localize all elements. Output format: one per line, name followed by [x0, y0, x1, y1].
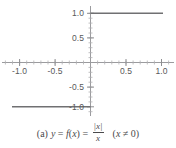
x-tick-label-1: 1.0	[155, 66, 167, 76]
x-tick-label-neg-0-5: -0.5	[48, 66, 63, 76]
caption-f-close-paren: )	[77, 128, 80, 139]
y-tick-label-neg-0-5: -0.5	[56, 82, 84, 92]
caption-y: y	[51, 128, 55, 139]
y-tick-label-0-5: 0.5	[56, 33, 84, 43]
caption-fraction-numerator: |x|	[93, 122, 104, 131]
caption-condition: (x≠0)	[113, 128, 140, 139]
caption-equals-2: =	[82, 128, 88, 139]
x-tick-label-neg-1: -1.0	[12, 66, 27, 76]
figure-panel: -1.0 -0.5 0.5 1.0 1.0 0.5 -0.5 -1.0 (a) …	[0, 0, 176, 148]
y-tick-label-1: 1.0	[56, 8, 84, 18]
plot-area: -1.0 -0.5 0.5 1.0 1.0 0.5 -0.5 -1.0	[0, 0, 176, 118]
caption-fraction-denominator: x	[95, 134, 101, 143]
x-tick-label-0-5: 0.5	[120, 66, 132, 76]
caption-condition-relation: ≠	[123, 128, 129, 139]
caption-condition-close-paren: )	[136, 128, 139, 139]
caption-fraction: |x| x	[93, 122, 104, 143]
figure-caption: (a) y = f ( x ) = |x| x (x≠0)	[0, 118, 176, 148]
caption-equals-1: =	[58, 128, 64, 139]
caption-condition-variable: x	[116, 128, 120, 139]
caption-tag: (a)	[37, 128, 48, 139]
y-tick-label-neg-1: -1.0	[56, 102, 84, 112]
plot-svg	[0, 0, 176, 118]
